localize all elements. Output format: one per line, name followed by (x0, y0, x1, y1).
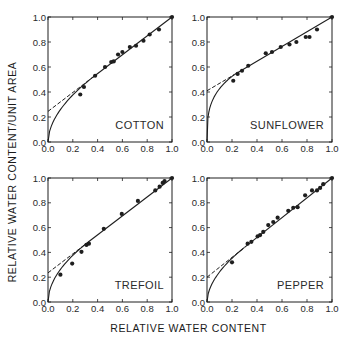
data-point (82, 85, 86, 89)
x-tick-label: 0.6 (275, 143, 288, 154)
y-tick-label: 1.0 (33, 173, 46, 184)
x-tick-label: 0.8 (300, 303, 313, 314)
y-tick-label: 0.4 (192, 247, 205, 258)
y-tick-label: 0.4 (33, 87, 46, 98)
panel-pepper: 0.00.20.40.60.81.00.00.20.40.60.81.0PEPP… (192, 173, 339, 315)
y-tick-label: 0.2 (33, 112, 46, 123)
y-tick-label: 0.0 (33, 297, 46, 308)
data-point (102, 227, 106, 231)
x-tick-label: 0.4 (250, 303, 263, 314)
data-point (246, 242, 250, 246)
data-point (236, 72, 240, 76)
x-tick-label: 1.0 (165, 303, 178, 314)
data-point (128, 45, 132, 49)
y-tick-label: 0.4 (33, 247, 46, 258)
y-tick-label: 1.0 (192, 173, 205, 184)
data-point (310, 188, 314, 192)
panel-title: PEPPER (277, 279, 324, 291)
data-point (148, 32, 152, 36)
data-point (112, 59, 116, 63)
data-point (303, 193, 307, 197)
y-tick-label: 0.4 (192, 87, 205, 98)
y-axis-label: RELATIVE WATER CONTENT/UNIT AREA (6, 62, 18, 283)
x-tick-label: 0.4 (91, 303, 104, 314)
y-tick-label: 0.6 (33, 62, 46, 73)
data-point (294, 40, 298, 44)
x-tick-label: 0.4 (250, 143, 263, 154)
x-tick-label: 0.6 (275, 303, 288, 314)
data-point (258, 233, 262, 237)
x-tick-label: 0.8 (300, 143, 313, 154)
data-point (116, 52, 120, 56)
x-tick-label: 0.6 (116, 303, 129, 314)
data-point (153, 188, 157, 192)
data-point (103, 65, 107, 69)
data-point (120, 50, 124, 54)
data-point (170, 176, 174, 180)
solid-fit-curve (207, 75, 235, 142)
data-point (58, 273, 62, 277)
y-tick-label: 0.0 (192, 297, 205, 308)
data-point (330, 15, 334, 19)
data-point (78, 92, 82, 96)
data-point (304, 35, 308, 39)
data-point (136, 199, 140, 203)
data-point (246, 64, 250, 68)
y-tick-label: 0.8 (192, 37, 205, 48)
data-point (330, 176, 334, 180)
data-point (271, 220, 275, 224)
data-point (270, 50, 274, 54)
x-axis-label: RELATIVE WATER CONTENT (0, 322, 347, 334)
data-point (141, 39, 145, 43)
panel-cotton: 0.00.20.40.60.81.00.00.20.40.60.81.0COTT… (33, 12, 179, 155)
x-tick-label: 0.8 (141, 303, 154, 314)
y-tick-label: 0.2 (33, 272, 46, 283)
data-point (266, 223, 270, 227)
solid-fit-curve (48, 76, 95, 142)
chart-canvas: 0.00.20.40.60.81.00.00.20.40.60.81.0COTT… (0, 0, 347, 344)
x-tick-label: 0.8 (141, 143, 154, 154)
y-tick-label: 0.6 (192, 62, 205, 73)
data-point (279, 45, 283, 49)
data-point (70, 261, 74, 265)
y-tick-label: 1.0 (192, 12, 205, 23)
data-point (276, 216, 280, 220)
data-point (162, 179, 166, 183)
y-tick-label: 0.2 (192, 112, 205, 123)
x-tick-label: 1.0 (325, 143, 338, 154)
data-point (307, 35, 311, 39)
y-tick-label: 1.0 (33, 12, 46, 23)
panel-sunflower: 0.00.20.40.60.81.00.00.20.40.60.81.0SUNF… (192, 12, 339, 155)
data-point (231, 79, 235, 83)
data-point (157, 27, 161, 31)
x-tick-label: 0.4 (91, 143, 104, 154)
panel-title: SUNFLOWER (250, 119, 324, 131)
y-tick-label: 0.8 (33, 37, 46, 48)
data-point (318, 186, 322, 190)
x-tick-label: 0.2 (225, 143, 238, 154)
data-point (287, 42, 291, 46)
data-point (170, 15, 174, 19)
y-tick-label: 0.2 (192, 272, 205, 283)
y-tick-label: 0.0 (192, 137, 205, 148)
x-tick-label: 0.2 (66, 143, 79, 154)
x-tick-label: 0.6 (116, 143, 129, 154)
data-point (87, 242, 91, 246)
panel-title: TREFOIL (115, 279, 164, 291)
y-tick-label: 0.8 (33, 197, 46, 208)
x-tick-label: 1.0 (325, 303, 338, 314)
data-point (315, 27, 319, 31)
y-tick-label: 0.6 (33, 222, 46, 233)
y-tick-label: 0.6 (192, 222, 205, 233)
y-tick-label: 0.0 (33, 137, 46, 148)
figure: 0.00.20.40.60.81.00.00.20.40.60.81.0COTT… (0, 0, 347, 344)
dashed-fit-line (207, 75, 235, 91)
data-point (296, 205, 300, 209)
data-point (158, 185, 162, 189)
data-point (79, 250, 83, 254)
data-point (249, 240, 253, 244)
panel-trefoil: 0.00.20.40.60.81.00.00.20.40.60.81.0TREF… (33, 173, 179, 315)
data-point (120, 212, 124, 216)
data-point (291, 206, 295, 210)
y-tick-label: 0.8 (192, 197, 205, 208)
